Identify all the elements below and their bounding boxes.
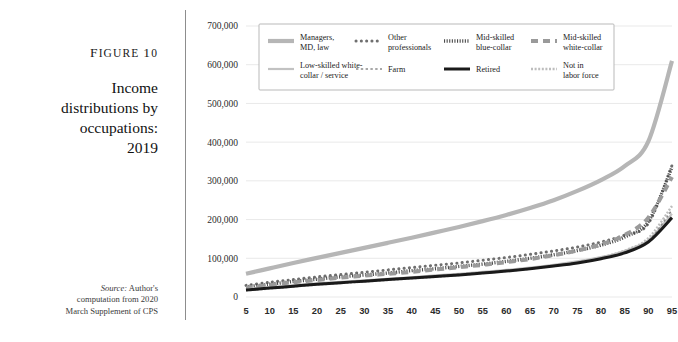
caption-panel: FIGURE 10 Incomedistributions byoccupati… [0,0,186,342]
chart-panel: 0100,000200,000300,000400,000500,000600,… [186,0,678,342]
x-tick-label: 60 [501,306,511,316]
source-note: Source: Author'scomputation from 2020Mar… [8,283,158,318]
title-line: 2019 [127,139,158,156]
x-tick-label: 55 [477,306,487,316]
y-tick-label: 700,000 [207,21,238,31]
legend-label: professionals [388,43,431,52]
x-axis-tick-labels: 5101520253035404550556065707580859095 [243,306,677,316]
y-axis-tick-labels: 0100,000200,000300,000400,000500,000600,… [207,21,238,302]
y-tick-label: 200,000 [207,215,238,225]
x-tick-label: 10 [264,306,274,316]
x-tick-label: 45 [430,306,440,316]
series-line [246,177,672,288]
x-tick-label: 85 [619,306,629,316]
y-tick-label: 400,000 [207,138,238,148]
source-label: Source: [101,283,127,293]
x-tick-label: 65 [525,306,535,316]
chart-legend: Managers,MD, lawOtherprofessionalsMid-sk… [259,24,614,90]
page-title: Incomedistributions byoccupations:2019 [18,78,158,158]
x-tick-label: 95 [667,306,677,316]
title-line: distributions by [61,99,158,116]
y-tick-label: 100,000 [207,254,238,264]
legend-label: Low-skilled white- [300,61,363,70]
legend-label: Mid-skilled [563,33,601,42]
figure-container: FIGURE 10 Incomedistributions byoccupati… [0,0,678,342]
legend-label: collar / service [300,71,349,80]
legend-label: Farm [388,65,406,74]
y-tick-label: 0 [233,292,238,302]
x-tick-label: 20 [312,306,322,316]
x-tick-label: 70 [548,306,558,316]
x-tick-label: 5 [243,306,248,316]
x-tick-label: 25 [335,306,345,316]
series-lines [246,61,672,291]
legend-label: MD, law [300,43,329,52]
legend-label: Managers, [300,33,334,42]
legend-label: Retired [476,65,500,74]
x-tick-label: 75 [572,306,582,316]
income-distribution-line-chart: 0100,000200,000300,000400,000500,000600,… [186,0,678,342]
legend-label: Not in [563,61,584,70]
x-tick-label: 90 [643,306,653,316]
y-tick-label: 500,000 [207,99,238,109]
title-line: Income [112,79,158,96]
legend-label: Other [388,33,407,42]
x-tick-label: 80 [596,306,606,316]
y-tick-label: 600,000 [207,60,238,70]
x-tick-label: 50 [454,306,464,316]
legend-label: Mid-skilled [476,33,514,42]
x-tick-label: 30 [359,306,369,316]
x-tick-label: 35 [383,306,393,316]
x-tick-label: 40 [406,306,416,316]
legend-label: white-collar [563,43,603,52]
legend-label: blue-collar [476,43,512,52]
x-tick-label: 15 [288,306,298,316]
legend-label: labor force [563,71,599,80]
figure-number: FIGURE 10 [90,45,158,61]
y-tick-label: 300,000 [207,176,238,186]
title-line: occupations: [80,119,158,136]
